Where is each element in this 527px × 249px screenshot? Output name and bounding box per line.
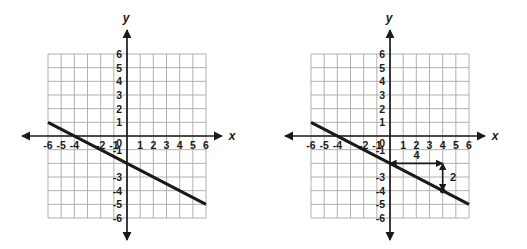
svg-text:-6: -6 <box>43 139 52 151</box>
svg-text:1: 1 <box>379 116 385 128</box>
svg-text:-5: -5 <box>319 139 328 151</box>
svg-text:1: 1 <box>400 139 406 151</box>
svg-text:-4: -4 <box>113 185 122 197</box>
svg-text:4: 4 <box>440 139 446 151</box>
right-y-axis-label: y <box>385 11 394 25</box>
svg-text:6: 6 <box>466 139 472 151</box>
svg-text:-3: -3 <box>376 171 385 183</box>
svg-text:-3: -3 <box>113 171 122 183</box>
svg-text:5: 5 <box>190 139 196 151</box>
left-graph-svg: -6 -5 -4 -2 -1 1 2 3 4 5 6 0 6 5 4 3 2 <box>0 0 264 249</box>
svg-text:-4: -4 <box>70 139 79 151</box>
plot-point-marker <box>440 188 445 193</box>
left-y-axis-label: y <box>122 11 131 25</box>
svg-text:-5: -5 <box>376 198 385 210</box>
svg-text:5: 5 <box>116 62 122 74</box>
svg-text:-5: -5 <box>56 139 65 151</box>
svg-text:6: 6 <box>116 48 122 60</box>
svg-text:3: 3 <box>116 89 122 101</box>
svg-text:3: 3 <box>379 89 385 101</box>
svg-text:-6: -6 <box>113 212 122 224</box>
svg-text:-5: -5 <box>113 198 122 210</box>
left-x-axis-label: x <box>228 129 237 143</box>
svg-text:-4: -4 <box>376 185 385 197</box>
svg-text:4: 4 <box>177 139 183 151</box>
right-x-axis-label: x <box>491 129 500 143</box>
svg-text:1: 1 <box>137 139 143 151</box>
svg-text:2: 2 <box>150 139 156 151</box>
svg-text:2: 2 <box>413 139 419 151</box>
svg-text:-4: -4 <box>333 139 342 151</box>
svg-text:-1: -1 <box>113 144 122 156</box>
svg-text:4: 4 <box>116 75 122 87</box>
svg-text:1: 1 <box>116 116 122 128</box>
right-graph-panel: 4 2 -6 -5 -4 -2 -1 1 2 3 4 5 6 0 6 <box>263 0 527 249</box>
svg-text:3: 3 <box>427 139 433 151</box>
svg-text:2: 2 <box>116 103 122 115</box>
rise-arrow-label: 2 <box>450 171 456 183</box>
svg-text:-6: -6 <box>306 139 315 151</box>
svg-text:2: 2 <box>379 103 385 115</box>
svg-text:6: 6 <box>379 48 385 60</box>
svg-text:5: 5 <box>379 62 385 74</box>
svg-text:-1: -1 <box>376 144 385 156</box>
svg-text:3: 3 <box>164 139 170 151</box>
svg-text:5: 5 <box>453 139 459 151</box>
svg-text:-2: -2 <box>359 139 368 151</box>
svg-text:4: 4 <box>379 75 385 87</box>
svg-text:6: 6 <box>203 139 209 151</box>
figure-canvas: -6 -5 -4 -2 -1 1 2 3 4 5 6 0 6 5 4 3 2 <box>0 0 527 249</box>
svg-text:-2: -2 <box>96 139 105 151</box>
svg-text:-6: -6 <box>376 212 385 224</box>
right-graph-svg: 4 2 -6 -5 -4 -2 -1 1 2 3 4 5 6 0 6 <box>263 0 527 249</box>
left-graph-panel: -6 -5 -4 -2 -1 1 2 3 4 5 6 0 6 5 4 3 2 <box>0 0 264 249</box>
